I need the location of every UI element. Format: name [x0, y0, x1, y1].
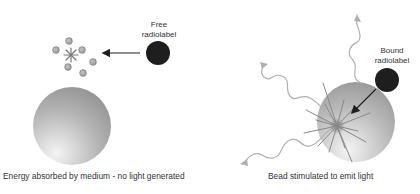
- bound-radiolabel: [375, 68, 399, 92]
- absorbed-energy-particles: [53, 38, 97, 77]
- right-panel: [240, 14, 399, 166]
- bead-left: [33, 87, 111, 165]
- left-caption: Energy absorbed by medium - no light gen…: [3, 171, 185, 181]
- free-radiolabel: [146, 41, 170, 65]
- bound-radiolabel-label: Bound radiolabel: [372, 46, 412, 66]
- free-label-line2: radiolabel: [140, 30, 178, 40]
- right-caption: Bead stimulated to emit light: [268, 171, 373, 181]
- small-star-icon: [64, 48, 78, 62]
- left-panel: [33, 38, 170, 165]
- bound-label-line1: Bound: [372, 46, 412, 56]
- free-radiolabel-label: Free radiolabel: [140, 20, 178, 40]
- diagram-canvas: [0, 0, 420, 194]
- free-label-line1: Free: [140, 20, 178, 30]
- bound-label-line2: radiolabel: [372, 56, 412, 66]
